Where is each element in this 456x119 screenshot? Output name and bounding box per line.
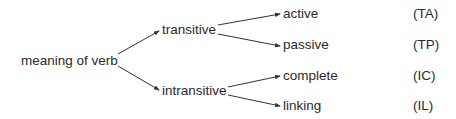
leaf-active-label: active: [283, 6, 318, 22]
branch-intransitive-label: intransitive: [162, 83, 227, 99]
branch-transitive-label: transitive: [162, 22, 216, 38]
arrow-intransitive-to-linking: [228, 95, 280, 106]
leaf-passive-label: passive: [283, 37, 329, 53]
code-ta: (TA): [413, 6, 438, 22]
leaf-linking-label: linking: [283, 98, 321, 114]
arrow-root-to-transitive: [118, 31, 159, 54]
leaf-complete-label: complete: [283, 68, 338, 84]
code-il: (IL): [413, 98, 433, 114]
root-node-label: meaning of verb: [21, 53, 118, 69]
verb-meaning-tree-diagram: meaning of verb transitive intransitive …: [0, 0, 456, 119]
code-tp: (TP): [413, 37, 439, 53]
arrow-transitive-to-active: [218, 14, 280, 25]
code-ic: (IC): [413, 68, 436, 84]
arrow-intransitive-to-complete: [228, 76, 280, 87]
arrow-root-to-intransitive: [118, 66, 159, 90]
arrow-transitive-to-passive: [218, 34, 280, 46]
